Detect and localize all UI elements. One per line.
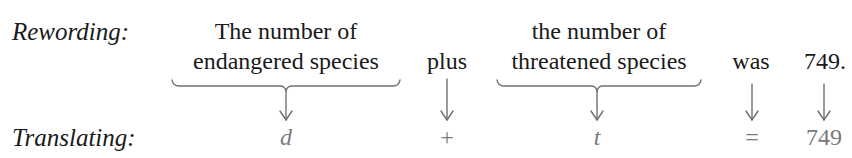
symbol-plus: +	[427, 124, 467, 151]
arrow-5-icon	[818, 84, 830, 120]
arrow-1-icon	[280, 91, 292, 120]
underbrace-3	[497, 80, 701, 91]
symbol-equals: =	[732, 124, 772, 151]
symbol-d: d	[266, 124, 306, 151]
symbol-t: t	[577, 124, 617, 151]
underbrace-1	[172, 80, 400, 91]
arrow-3-icon	[591, 91, 603, 120]
symbol-749: 749	[800, 124, 848, 151]
arrow-2-icon	[441, 79, 453, 120]
braces-and-arrows	[0, 0, 852, 158]
arrow-4-icon	[746, 84, 758, 120]
